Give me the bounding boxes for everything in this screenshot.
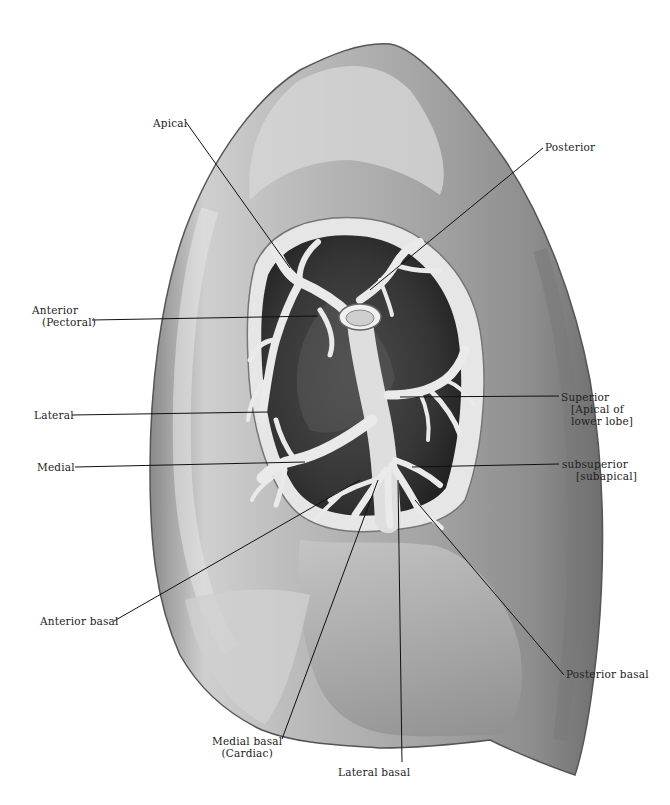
label-line: [subapical] xyxy=(562,470,637,482)
label-line: Superior xyxy=(561,391,633,403)
label-posterior: Posterior xyxy=(545,141,595,153)
label-apical: Apical xyxy=(153,117,187,129)
label-line: Medial basal xyxy=(212,735,282,747)
label-line: [Apical of xyxy=(561,403,633,415)
label-line: subsuperior xyxy=(562,458,637,470)
label-lateral: Lateral xyxy=(34,409,74,421)
label-subsuperior: subsuperior [subapical] xyxy=(562,458,637,482)
label-medial: Medial xyxy=(37,461,75,473)
label-line: Anterior xyxy=(32,304,96,316)
label-superior: Superior [Apical of lower lobe] xyxy=(561,391,633,427)
label-lateral-basal: Lateral basal xyxy=(338,766,410,778)
label-medial-basal: Medial basal (Cardiac) xyxy=(212,735,282,759)
label-posterior-basal: Posterior basal xyxy=(566,668,649,680)
label-line: lower lobe] xyxy=(561,415,633,427)
label-anterior-basal: Anterior basal xyxy=(40,615,119,627)
label-anterior-pectoral: Anterior (Pectoral) xyxy=(32,304,96,328)
label-line: (Pectoral) xyxy=(32,316,96,328)
lung-diagram: Apical Posterior Anterior (Pectoral) Lat… xyxy=(0,0,670,805)
label-line: (Cardiac) xyxy=(212,747,282,759)
